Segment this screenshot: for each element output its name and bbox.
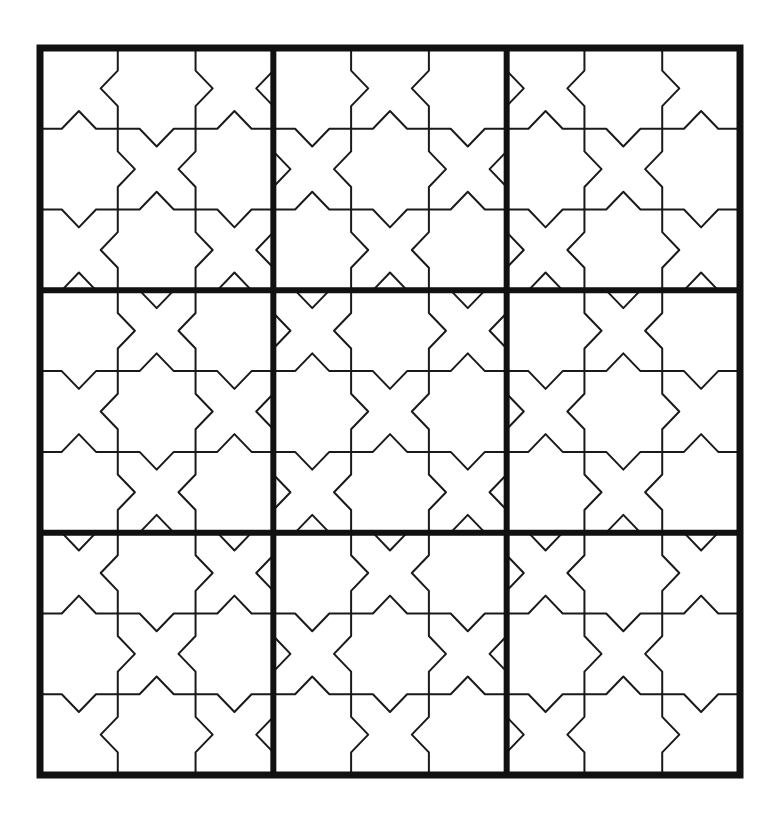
tessellation-puzzle-canvas bbox=[0, 0, 773, 831]
